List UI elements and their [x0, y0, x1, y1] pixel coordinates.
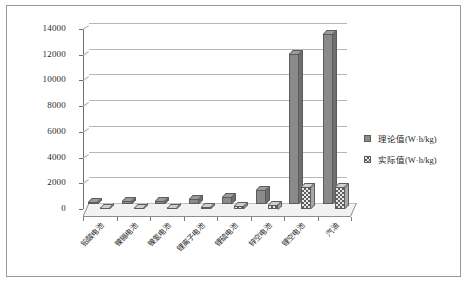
y-axis-tick — [79, 106, 83, 107]
gridline — [89, 126, 347, 127]
bar-face — [301, 187, 311, 209]
x-axis-tick — [284, 217, 285, 221]
y-axis-tick — [79, 183, 83, 184]
x-axis-tick — [351, 217, 352, 221]
bar — [323, 34, 333, 204]
chart-legend: 理论值(W·h/kg) 实际值(W·h/kg) — [364, 132, 437, 174]
legend-swatch-actual-icon — [364, 156, 371, 163]
y-axis-tick-label: 6000 — [47, 126, 66, 136]
bar — [256, 190, 266, 204]
gridline-riser — [83, 25, 89, 30]
chart-floor — [83, 203, 357, 217]
bar — [122, 201, 132, 204]
bar-face — [268, 205, 278, 210]
bar-face — [189, 199, 199, 204]
gridline — [89, 23, 347, 24]
y-axis-tick — [79, 158, 83, 159]
bar — [167, 208, 177, 209]
bar-face — [222, 197, 232, 204]
x-axis-tick — [251, 217, 252, 221]
legend-item-theory: 理论值(W·h/kg) — [364, 132, 437, 144]
chart-frame: 02000400060008000100001200014000 铅酸电池镍镉电… — [6, 5, 461, 277]
bar-face — [122, 201, 132, 204]
bar-face — [201, 207, 211, 209]
bar — [234, 206, 244, 209]
x-axis-category-label: 镍氢电池 — [145, 220, 173, 248]
x-axis-category-label: 铅酸电池 — [78, 220, 106, 248]
bar-face — [289, 54, 299, 204]
bar — [268, 205, 278, 210]
x-axis-tick — [150, 217, 151, 221]
y-axis-tick-label: 10000 — [43, 74, 67, 84]
x-axis-category-label: 锂空电池 — [279, 220, 307, 248]
gridline — [89, 177, 347, 178]
gridline — [89, 74, 347, 75]
bar — [301, 187, 311, 209]
bar — [134, 208, 144, 209]
bar — [289, 54, 299, 204]
bar-face — [88, 202, 98, 204]
bar — [100, 208, 110, 209]
bar-face — [234, 206, 244, 209]
bar-side — [345, 183, 349, 209]
x-axis-tick — [117, 217, 118, 221]
bar-face — [155, 201, 165, 204]
bar-side — [311, 183, 315, 209]
y-axis-tick-label: 0 — [61, 203, 66, 213]
legend-label-actual: 实际值(W·h/kg) — [378, 153, 437, 165]
y-axis-tick-label: 12000 — [43, 49, 67, 59]
legend-swatch-theory-icon — [364, 135, 371, 142]
gridline — [89, 152, 347, 153]
bar-side — [266, 186, 270, 204]
y-axis-tick-label: 14000 — [43, 23, 67, 33]
bar-side — [299, 50, 303, 204]
bar-side — [333, 30, 337, 204]
x-axis-tick — [184, 217, 185, 221]
x-axis-category-label: 汽油 — [322, 220, 340, 238]
legend-item-actual: 实际值(W·h/kg) — [364, 153, 437, 165]
gridline — [89, 100, 347, 101]
x-axis-category-label: 锂离子电池 — [173, 220, 206, 253]
plot-area: 02000400060008000100001200014000 铅酸电池镍镉电… — [7, 6, 462, 278]
x-axis-tick — [83, 217, 84, 221]
x-axis-category-label: 锌空电池 — [245, 220, 273, 248]
bar-face — [323, 34, 333, 204]
y-axis-tick — [79, 55, 83, 56]
y-axis-tick — [79, 80, 83, 81]
bar — [155, 201, 165, 204]
bar — [222, 197, 232, 204]
y-axis-tick-label: 4000 — [47, 152, 66, 162]
y-axis-tick-label: 2000 — [47, 177, 66, 187]
bar — [201, 207, 211, 209]
bar — [189, 199, 199, 204]
legend-label-theory: 理论值(W·h/kg) — [378, 132, 437, 144]
bar — [88, 202, 98, 204]
y-axis-tick — [79, 29, 83, 30]
x-axis-tick — [217, 217, 218, 221]
bar-face — [335, 187, 345, 209]
gridline — [89, 49, 347, 50]
bar — [335, 187, 345, 209]
x-axis-category-label: 镍镉电池 — [111, 220, 139, 248]
bar-face — [256, 190, 266, 204]
x-axis-category-label: 锂硫电池 — [212, 220, 240, 248]
y-axis-tick — [79, 132, 83, 133]
x-axis-tick — [318, 217, 319, 221]
y-axis-tick-label: 8000 — [47, 100, 66, 110]
